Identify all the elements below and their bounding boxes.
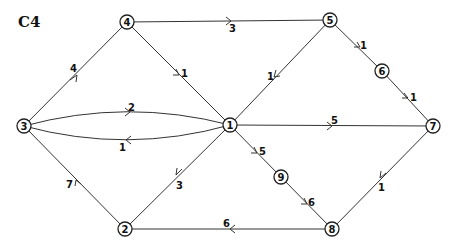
diagram-title: C4: [18, 13, 40, 31]
edge-weight: 1: [378, 182, 385, 193]
edge-weight: 3: [229, 23, 236, 34]
edge-weight: 7: [66, 179, 73, 190]
edge-8-2: 6: [125, 218, 332, 233]
edge-weight: 4: [70, 63, 77, 74]
graph-diagram: C4 4 3 1 1 1: [0, 0, 455, 250]
svg-text:1: 1: [227, 120, 234, 131]
node-1: 1: [223, 118, 237, 132]
edge-weight: 1: [410, 92, 417, 103]
edge-1-3: 1: [24, 125, 230, 153]
node-3: 3: [17, 119, 31, 133]
edge-3-4: 4: [24, 22, 127, 126]
edge-1-7: 5: [230, 115, 433, 130]
edge-7-8: 1: [332, 126, 433, 229]
edge-1-9: 5: [230, 125, 281, 177]
edge-1-2: 3: [125, 125, 230, 229]
svg-text:9: 9: [278, 172, 285, 183]
svg-text:5: 5: [327, 15, 334, 26]
edge-weight: 1: [119, 142, 126, 153]
svg-text:7: 7: [430, 121, 437, 132]
edge-weight: 6: [223, 218, 230, 229]
svg-text:2: 2: [122, 224, 129, 235]
edge-6-7: 1: [382, 71, 433, 126]
edge-weight: 5: [259, 146, 266, 157]
svg-text:4: 4: [124, 17, 131, 28]
edge-4-1: 1: [127, 22, 230, 125]
edge-weight: 2: [128, 102, 135, 113]
svg-text:8: 8: [329, 224, 336, 235]
node-8: 8: [325, 222, 339, 236]
edge-weight: 3: [176, 180, 183, 191]
edge-4-5: 3: [127, 17, 330, 34]
edge-weight: 1: [360, 40, 367, 51]
svg-text:6: 6: [379, 66, 386, 77]
node-5: 5: [323, 13, 337, 27]
edge-3-1: 2: [24, 102, 230, 126]
edge-weight: 6: [308, 197, 315, 208]
edge-weight: 1: [267, 71, 274, 82]
node-7: 7: [426, 119, 440, 133]
edge-2-3: 7: [24, 126, 125, 229]
node-6: 6: [375, 64, 389, 78]
edge-weight: 1: [181, 68, 188, 79]
edge-weight: 5: [331, 115, 338, 126]
edge-5-6: 1: [330, 20, 382, 71]
arrow-icon: [173, 69, 179, 75]
nodes: 1 2 3 4 5 6 7 8: [17, 13, 440, 236]
node-4: 4: [120, 15, 134, 29]
node-9: 9: [274, 170, 288, 184]
svg-text:3: 3: [21, 121, 28, 132]
node-2: 2: [118, 222, 132, 236]
edge-9-8: 6: [281, 177, 332, 229]
edge-5-1: 1: [230, 20, 330, 125]
